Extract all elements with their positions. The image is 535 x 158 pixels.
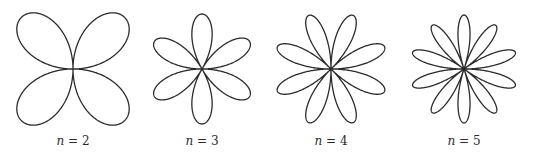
label-equals: =	[455, 134, 473, 148]
label-value: 5	[473, 134, 481, 148]
label-n5: n = 5	[414, 134, 514, 148]
rose-curves-figure: n = 2 n = 3 n = 4 n = 5	[0, 0, 535, 158]
